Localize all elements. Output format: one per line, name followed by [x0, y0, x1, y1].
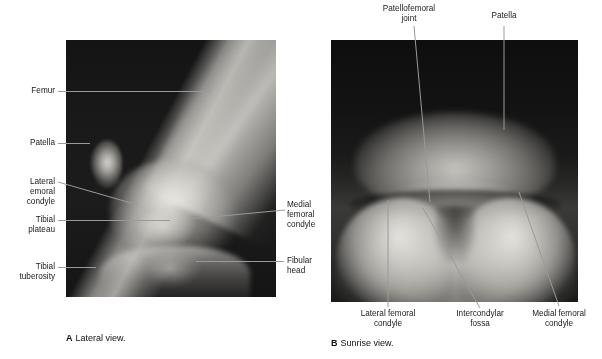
figure-root: Femur Patella Lateral emoral condyle Tib…: [0, 0, 602, 359]
label-lateral-femoral-condyle-sunrise: Lateral femoral condyle: [342, 309, 434, 329]
label-intercondylar-fossa: Intercondylar fossa: [437, 309, 523, 329]
xray-image-sunrise-view: [331, 40, 578, 302]
caption-text-a: Lateral view.: [76, 333, 126, 343]
label-patellofemoral-joint: Patellofemoral joint: [371, 4, 447, 24]
film-grain-overlay-sunrise: [331, 40, 578, 302]
leader-line-tibial-plateau: [58, 220, 170, 221]
label-lateral-femoral-condyle-lateralview: Lateral emoral condyle: [0, 177, 55, 208]
leader-line-fibular-head: [196, 261, 284, 262]
label-tibial-tuberosity: Tibial tuberosity: [0, 262, 55, 282]
film-grain-overlay: [66, 40, 276, 297]
label-patella-sunrise: Patella: [474, 11, 534, 21]
caption-mark-a: A: [66, 333, 73, 343]
xray-image-lateral-view: [66, 40, 276, 297]
caption-panel-a: ALateral view.: [66, 333, 126, 344]
label-tibial-plateau: Tibial plateau: [2, 215, 55, 235]
leader-line-tibial-tuberosity: [58, 267, 96, 268]
caption-panel-b: BSunrise view.: [331, 338, 394, 349]
label-femur: Femur: [2, 86, 55, 96]
leader-line-patella-lateral: [58, 143, 90, 144]
label-medial-femoral-condyle-sunrise: Medial femoral condyle: [519, 309, 599, 329]
caption-text-b: Sunrise view.: [341, 338, 394, 348]
label-patella-lateral: Patella: [2, 138, 55, 148]
caption-mark-b: B: [331, 338, 338, 348]
leader-line-femur: [58, 91, 211, 92]
